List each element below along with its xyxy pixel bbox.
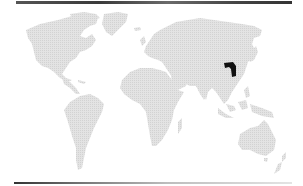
greenland	[102, 12, 128, 36]
bottom-rule	[14, 182, 292, 184]
south-america	[64, 94, 104, 170]
tasmania	[264, 158, 268, 162]
north-america	[26, 15, 98, 82]
world-map	[0, 0, 303, 186]
new-zealand	[274, 152, 286, 174]
iceland	[134, 27, 141, 31]
australia	[238, 120, 276, 156]
british-isles	[140, 36, 146, 46]
caribbean	[78, 80, 86, 84]
madagascar	[178, 118, 182, 134]
